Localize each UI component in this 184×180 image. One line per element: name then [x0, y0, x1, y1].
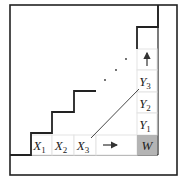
x2-subscript: 2	[63, 145, 68, 155]
ellipsis-dot	[104, 79, 106, 81]
diagonal-link-line	[91, 89, 139, 138]
ellipsis-dot	[115, 69, 117, 71]
y3-subscript: 3	[146, 81, 151, 91]
x3-subscript: 3	[85, 145, 90, 155]
y2-subscript: 2	[146, 103, 151, 113]
upper-staircase-boundary	[137, 5, 158, 49]
ellipsis-dots	[104, 58, 127, 81]
x1-subscript: 1	[41, 145, 46, 155]
ellipsis-dot	[125, 58, 127, 60]
staircase-diagram: X1X2X3 Y3Y2Y1 W	[0, 0, 184, 180]
y1-subscript: 1	[146, 124, 151, 134]
w-label: W	[142, 138, 154, 153]
x-row: X1X2X3	[31, 135, 137, 155]
